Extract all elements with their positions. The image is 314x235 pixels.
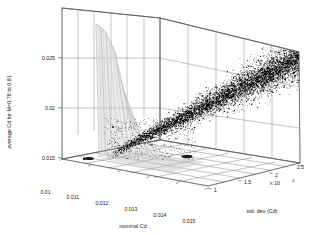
x-axis-label: nominal Cd xyxy=(119,223,146,229)
z-tick-label: 1 xyxy=(214,187,217,193)
matlab-figure-window: 0.025 0.02 0.015 average Cd for M=0.78 t… xyxy=(0,0,314,235)
y-axis-tick-labels: 0.025 0.02 0.015 xyxy=(42,55,55,161)
x-axis-tick-labels: 0.01 0.011 0.012 0.013 0.014 0.015 xyxy=(41,189,196,224)
y-tick-label: 0.025 xyxy=(42,55,55,61)
x-tick-label: 0.012 xyxy=(96,200,109,206)
z-tick-label: 2 xyxy=(275,172,278,178)
x-tick-label: 0.011 xyxy=(67,194,80,200)
z-tick-label: 1.5 xyxy=(244,179,251,185)
z-exponent-power: -4 xyxy=(291,179,294,183)
x-tick-label: 0.015 xyxy=(183,218,196,224)
x-tick-label: 0.013 xyxy=(125,206,138,212)
chart-canvas: 0.025 0.02 0.015 average Cd for M=0.78 t… xyxy=(0,0,314,235)
y-axis-ticks xyxy=(58,58,62,159)
y-tick-label: 0.015 xyxy=(42,155,55,161)
y-axis-label: average Cd for M=0.78 to 0.81 xyxy=(6,75,12,148)
x-tick-label: 0.01 xyxy=(41,189,51,195)
z-exponent-base: x 10 xyxy=(270,180,280,186)
y-tick-label: 0.02 xyxy=(45,105,55,111)
z-axis-label: std. dev (Cd) xyxy=(247,208,278,214)
z-tick-label: 2.5 xyxy=(297,164,304,170)
x-tick-label: 0.014 xyxy=(154,212,167,218)
z-axis-exponent: x 10 -4 xyxy=(270,179,294,186)
